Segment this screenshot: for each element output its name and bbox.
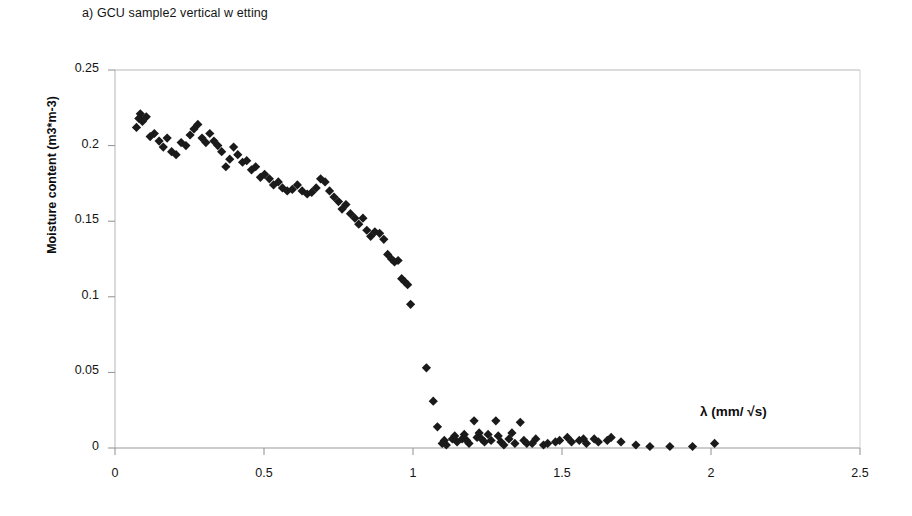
chart-figure: a) GCU sample2 vertical w etting Moistur… — [0, 0, 912, 516]
data-point — [225, 155, 234, 164]
y-tick-label: 0.15 — [43, 212, 99, 226]
data-point — [616, 437, 625, 446]
scatter-plot-area — [0, 0, 912, 516]
y-tick-label: 0.25 — [43, 61, 99, 75]
data-point — [229, 143, 238, 152]
x-axis-ticks — [115, 448, 860, 455]
x-tick-label: 2 — [691, 466, 731, 480]
y-tick-label: 0 — [43, 439, 99, 453]
data-point — [516, 418, 525, 427]
data-point — [491, 416, 500, 425]
y-tick-label: 0.1 — [43, 288, 99, 302]
data-point — [132, 123, 141, 132]
y-tick-label: 0.2 — [43, 137, 99, 151]
data-point — [429, 397, 438, 406]
y-tick-label: 0.05 — [43, 363, 99, 377]
x-tick-label: 2.5 — [840, 466, 880, 480]
data-point — [406, 300, 415, 309]
data-point — [163, 133, 172, 142]
y-axis-ticks — [108, 70, 115, 448]
data-point — [688, 442, 697, 451]
x-tick-label: 0 — [95, 466, 135, 480]
data-point — [645, 442, 654, 451]
x-tick-label: 1.5 — [542, 466, 582, 480]
data-point — [422, 363, 431, 372]
data-point — [205, 129, 214, 138]
data-point — [221, 162, 230, 171]
data-point — [665, 442, 674, 451]
data-point — [233, 150, 242, 159]
data-point-group — [132, 109, 719, 451]
x-tick-label: 0.5 — [244, 466, 284, 480]
data-point — [469, 416, 478, 425]
x-tick-label: 1 — [393, 466, 433, 480]
data-point — [433, 422, 442, 431]
axis-lines — [115, 70, 860, 448]
data-point — [710, 439, 719, 448]
